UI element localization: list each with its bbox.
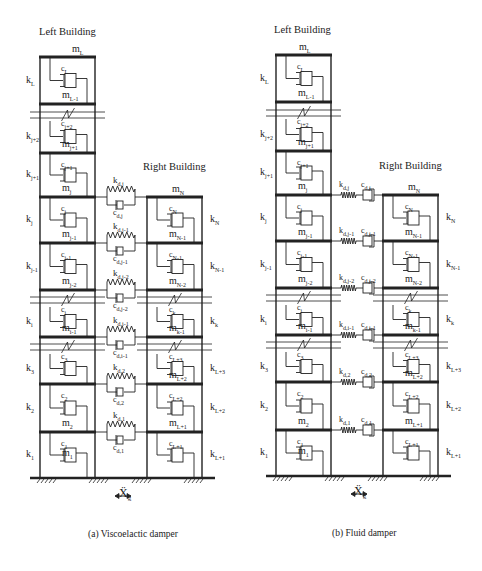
damper-stiffness-label: kd,1: [113, 411, 125, 422]
right-mass-label: mL+2: [405, 368, 423, 380]
left-mass-label: mj+1: [298, 137, 314, 149]
damper-damping-label: cd,1: [113, 444, 124, 454]
left-mass-label: mj: [298, 181, 307, 193]
damper-stiffness-label: kd,2: [113, 363, 125, 374]
left-stiffness-label: kL: [26, 75, 35, 87]
left-mass-label: mj: [62, 183, 71, 195]
left-mass-label: mj-2: [298, 274, 312, 286]
left-stiffness-label: k1: [26, 449, 34, 461]
damper-damping-label: cd,2: [113, 396, 124, 406]
left-stiffness-label: kj-1: [26, 261, 38, 273]
left-damping-label: cj-1: [297, 249, 307, 259]
damper-damping-label: cd,i-1: [361, 321, 376, 331]
right-mass-label: mL+2: [169, 370, 187, 382]
left-stiffness-label: kL: [260, 73, 269, 85]
left-stiffness-label: kj+1: [260, 167, 273, 179]
right-damping-label: ck: [169, 306, 176, 316]
right-damping-label: cN: [405, 203, 413, 213]
right-stiffness-label: kL+2: [446, 400, 461, 412]
left-damping-label: c2: [297, 390, 304, 400]
left-mass-label: mi-1: [298, 321, 312, 333]
damper-damping-label: cd,j-1: [113, 255, 128, 265]
right-damping-label: cL+2: [405, 390, 419, 400]
right-stiffness-label: kN: [446, 212, 455, 224]
left-mass-label: mj-1: [62, 229, 76, 241]
right-stiffness-label: kL+1: [446, 447, 461, 459]
right-stiffness-label: kL+3: [210, 363, 225, 375]
right-mass-label: mN-1: [169, 229, 186, 241]
right-stiffness-label: kk: [446, 314, 454, 326]
left-mass-label: m2: [298, 416, 309, 428]
left-damping-label: cj+2: [297, 118, 309, 128]
left-damping-label: cL: [61, 65, 68, 75]
ground-acceleration-a: Ẍg: [119, 487, 131, 502]
left-stiffness-label: k1: [260, 447, 268, 459]
left-mass-label: mL-1: [298, 88, 314, 100]
left-damping-label: c2: [61, 392, 68, 402]
top-mass-right-label: mN: [172, 184, 184, 196]
right-mass-label: mN-2: [405, 274, 422, 286]
left-damping-label: cj-1: [61, 251, 71, 261]
left-mass-label: m2: [62, 418, 73, 430]
right-damping-label: ck: [405, 304, 412, 314]
right-building-title-a: Right Building: [143, 162, 206, 173]
left-mass-label: mj+1: [62, 139, 78, 151]
right-mass-label: mk-1: [169, 323, 185, 335]
right-damping-label: cL+2: [169, 392, 183, 402]
right-mass-label: mL+1: [405, 416, 423, 428]
right-damping-label: cL+3: [169, 353, 183, 363]
left-damping-label: cj+1: [61, 161, 73, 171]
left-stiffness-label: kj-1: [260, 259, 272, 271]
right-damping-label: cN-1: [405, 249, 418, 259]
left-stiffness-label: kj: [260, 212, 267, 224]
right-stiffness-label: kk: [210, 316, 218, 328]
damper-damping-label: cd,j: [361, 181, 371, 191]
damper-stiffness-label: kd,j-2: [113, 269, 129, 280]
damper-stiffness-label: kd,j: [339, 181, 349, 191]
damper-stiffness-label: kd,j-1: [113, 222, 129, 233]
damper-stiffness-label: kd,j-2: [339, 274, 354, 284]
left-damping-label: cj: [61, 205, 66, 215]
left-damping-label: ci: [297, 304, 302, 314]
damper-damping-label: cd,i-1: [113, 349, 128, 359]
right-mass-label: mN-2: [169, 276, 186, 288]
left-stiffness-label: kj+2: [260, 129, 273, 141]
right-stiffness-label: kN-1: [210, 261, 224, 273]
right-mass-label: mk-1: [405, 321, 421, 333]
damper-stiffness-label: kd,i-1: [339, 321, 354, 331]
damper-damping-label: cd,j-2: [361, 274, 376, 284]
right-damping-label: cN-1: [169, 251, 182, 261]
left-damping-label: c3: [61, 353, 68, 363]
left-mass-label: m1: [62, 448, 73, 460]
damper-stiffness-label: kd,j-1: [339, 227, 354, 237]
right-building-title-b: Right Building: [379, 161, 442, 172]
damper-stiffness-label: kd,i-1: [113, 316, 129, 327]
right-mass-label: mL+1: [169, 418, 187, 430]
left-stiffness-label: k2: [260, 400, 268, 412]
left-stiffness-label: k2: [26, 402, 34, 414]
left-mass-label: mj-1: [298, 227, 312, 239]
left-stiffness-label: kj+2: [26, 131, 39, 143]
top-mass-right-label: mN: [408, 182, 420, 194]
right-damping-label: cL+1: [405, 438, 419, 448]
left-damping-label: c3: [297, 351, 304, 361]
damper-damping-label: cd,j: [113, 209, 123, 219]
damper-damping-label: cd,j-1: [361, 227, 376, 237]
left-damping-label: cj+2: [61, 120, 73, 130]
damper-damping-label: cd,j-2: [113, 302, 128, 312]
left-stiffness-label: k3: [260, 361, 268, 373]
left-stiffness-label: ki: [260, 314, 267, 326]
left-stiffness-label: kj+1: [26, 169, 39, 181]
left-mass-label: mL-1: [62, 90, 78, 102]
right-stiffness-label: kL+3: [446, 361, 461, 373]
left-damping-label: ci: [61, 306, 66, 316]
right-mass-label: mN-1: [405, 227, 422, 239]
left-mass-label: mj-2: [62, 276, 76, 288]
damper-damping-label: cd,1: [361, 416, 372, 426]
damper-stiffness-label: kd,j: [113, 176, 124, 187]
caption-b: (b) Fluid damper: [332, 529, 396, 539]
right-stiffness-label: kL+1: [210, 449, 225, 461]
left-damping-label: cj+1: [297, 159, 309, 169]
right-stiffness-label: kN-1: [446, 259, 460, 271]
left-damping-label: cL: [297, 63, 304, 73]
